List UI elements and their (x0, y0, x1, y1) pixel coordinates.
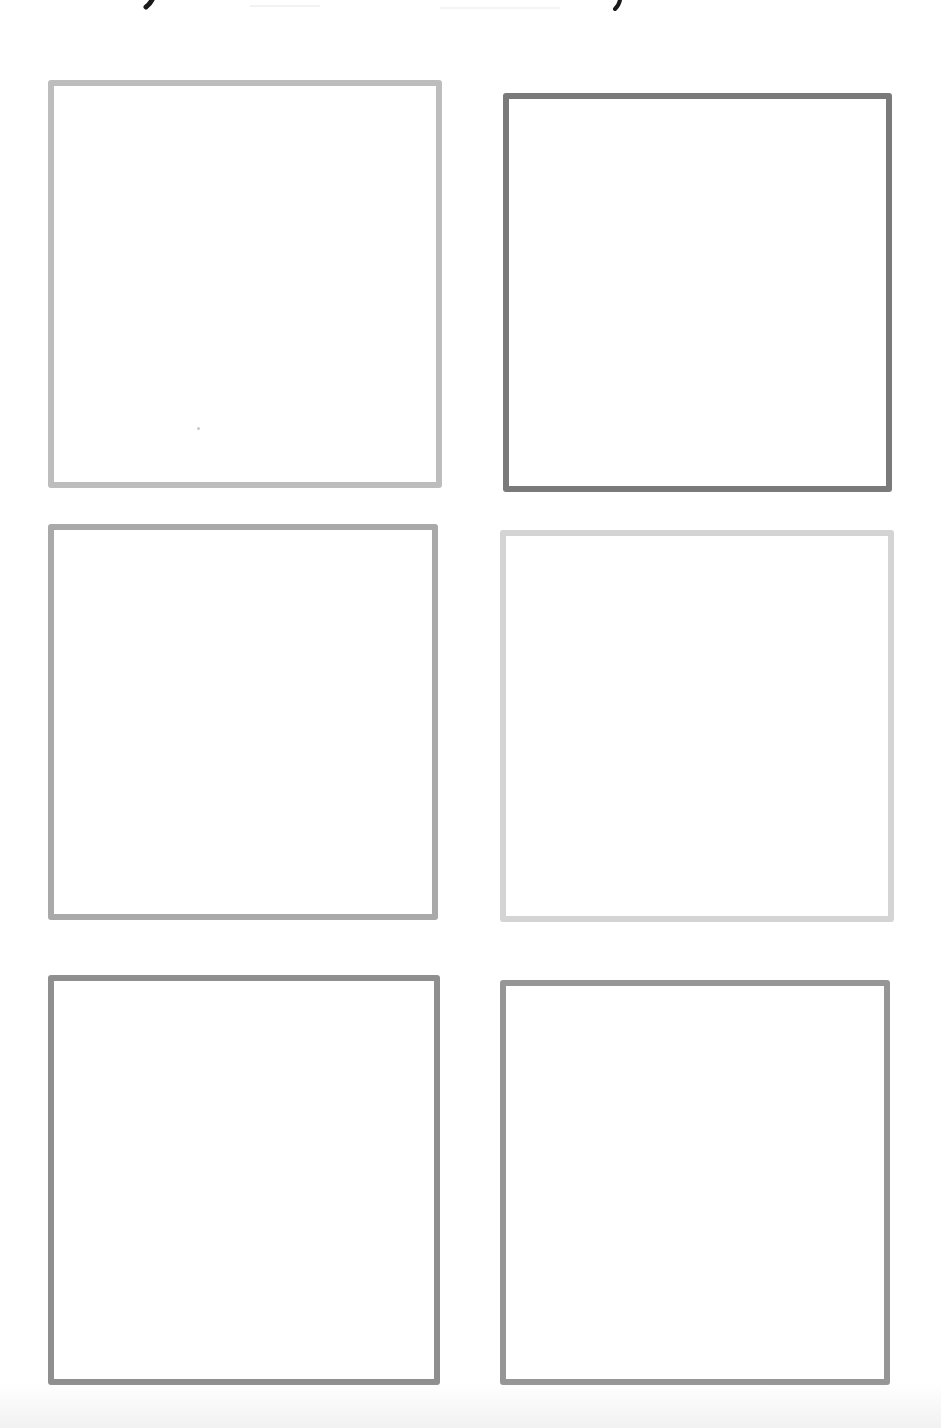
cropped-handwritten-header (0, 0, 941, 30)
drawing-box-row-3-right (500, 980, 890, 1385)
drawing-box-row-1-right (503, 93, 892, 492)
drawing-box-row-1-left (48, 80, 442, 488)
drawing-box-row-2-right (500, 530, 894, 922)
drawing-box-row-2-left (48, 524, 438, 920)
paper-speck (197, 427, 200, 430)
drawing-box-row-3-left (48, 975, 440, 1385)
handwriting-strokes-icon (0, 0, 941, 30)
page-bottom-shadow (0, 1383, 941, 1428)
